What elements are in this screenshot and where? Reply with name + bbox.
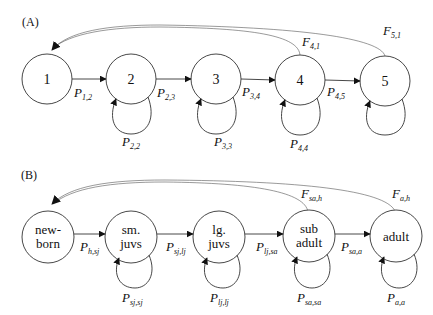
svg-text:sub: sub xyxy=(300,221,318,236)
label-f-4-1: F4,1 xyxy=(301,34,320,51)
node-5: 5 xyxy=(360,56,410,106)
svg-text:adult: adult xyxy=(383,229,409,244)
node-3: 3 xyxy=(191,54,241,104)
transition-arrow-3-4 xyxy=(241,79,275,80)
fecundity-arc-5-1 xyxy=(52,25,385,56)
label-p-sj-lj: Psj,lj xyxy=(165,239,187,256)
fecundity-arc-sa-h xyxy=(53,182,308,212)
label-p-3-3: P3,3 xyxy=(213,134,232,151)
svg-text:juvs: juvs xyxy=(119,236,142,251)
svg-text:juvs: juvs xyxy=(207,236,230,251)
fecundity-arcs-a xyxy=(52,25,385,56)
label-p-4-5: P4,5 xyxy=(326,84,345,101)
svg-text:sm.: sm. xyxy=(122,222,140,237)
label-f-5-1: F5,1 xyxy=(382,23,401,40)
label-p-3-4: P3,4 xyxy=(241,84,260,101)
panel-b: (B) new- born sm. juvs lg. juvs sub adul… xyxy=(21,168,422,307)
panel-b-label: (B) xyxy=(21,168,37,182)
fecundity-arc-a-h xyxy=(52,180,395,211)
svg-text:4: 4 xyxy=(297,73,304,88)
svg-text:1: 1 xyxy=(44,72,51,87)
node-newborn: new- born xyxy=(22,211,74,263)
label-p-lj-lj: Plj,lj xyxy=(209,290,230,307)
node-1: 1 xyxy=(22,54,72,104)
label-p-sj-sj: Psj,sj xyxy=(121,290,143,307)
svg-text:3: 3 xyxy=(213,72,220,87)
label-p-1-2: P1,2 xyxy=(73,85,92,102)
life-cycle-diagrams: (A) 1 2 3 4 5 xyxy=(0,0,433,315)
transition-arrow-4-5 xyxy=(325,80,360,81)
label-f-a-h: Fa,h xyxy=(391,186,410,203)
node-2: 2 xyxy=(106,54,156,104)
svg-text:born: born xyxy=(36,236,60,251)
label-p-h-sj: Ph,sj xyxy=(79,239,100,256)
svg-text:lg.: lg. xyxy=(212,222,225,237)
label-p-4-4: P4,4 xyxy=(289,136,308,153)
panel-a-label: (A) xyxy=(22,15,39,29)
svg-text:adult: adult xyxy=(296,235,322,250)
label-p-sa-a: Psa,a xyxy=(340,239,362,256)
label-p-a-a: Pa,a xyxy=(386,290,405,307)
label-p-2-3: P2,3 xyxy=(156,85,175,102)
svg-text:2: 2 xyxy=(128,72,135,87)
panel-a: (A) 1 2 3 4 5 xyxy=(22,15,410,153)
svg-text:new-: new- xyxy=(35,222,61,237)
label-p-lj-sa: Plj,sa xyxy=(255,239,278,256)
label-f-sa-h: Fsa,h xyxy=(300,186,322,203)
label-p-sa-sa: Psa,sa xyxy=(296,290,321,307)
svg-text:5: 5 xyxy=(382,74,389,89)
node-4: 4 xyxy=(275,55,325,105)
label-p-2-2: P2,2 xyxy=(121,134,140,151)
